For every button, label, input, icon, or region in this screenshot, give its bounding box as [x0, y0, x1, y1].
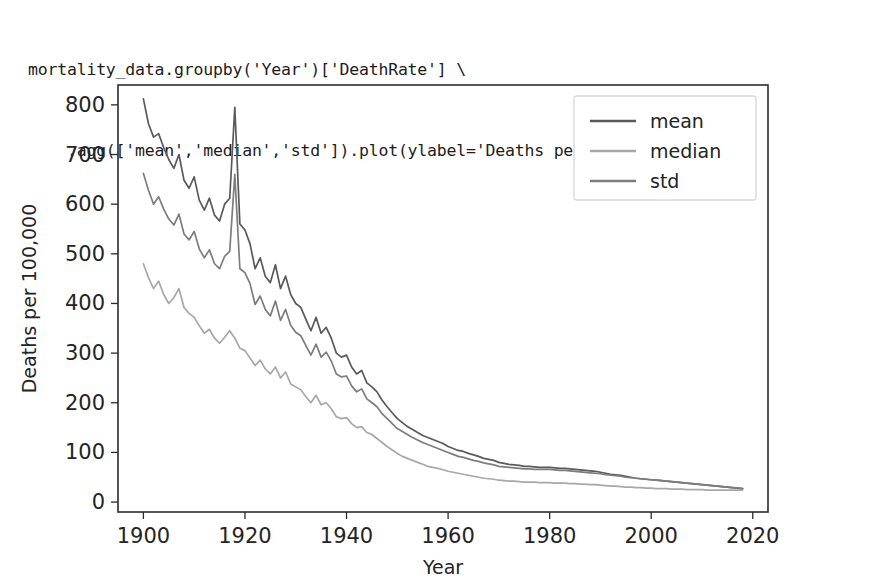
- legend-label-mean: mean: [650, 110, 704, 132]
- x-tick-label-2020: 2020: [726, 524, 779, 548]
- y-tick-label-0: 0: [92, 490, 105, 514]
- screenshot-root: mortality_data.groupby('Year')['DeathRat…: [0, 0, 896, 579]
- y-tick-label-400: 400: [65, 291, 105, 315]
- x-tick-label-1920: 1920: [218, 524, 271, 548]
- legend-label-std: std: [650, 170, 679, 192]
- y-tick-label-600: 600: [65, 192, 105, 216]
- legend-label-median: median: [650, 140, 721, 162]
- y-tick-label-300: 300: [65, 341, 105, 365]
- x-tick-label-1900: 1900: [117, 524, 170, 548]
- series-line-median: [143, 264, 742, 490]
- y-axis-title: Deaths per 100,000: [18, 204, 40, 394]
- y-tick-label-500: 500: [65, 242, 105, 266]
- x-tick-label-1960: 1960: [421, 524, 474, 548]
- x-tick-label-2000: 2000: [624, 524, 677, 548]
- y-tick-label-800: 800: [65, 93, 105, 117]
- matplotlib-figure: 0100200300400500600700800190019201940196…: [0, 62, 896, 579]
- series-line-std: [143, 173, 742, 488]
- line-chart: 0100200300400500600700800190019201940196…: [0, 62, 896, 579]
- x-tick-label-1980: 1980: [523, 524, 576, 548]
- x-tick-label-1940: 1940: [320, 524, 373, 548]
- x-axis-title: Year: [422, 556, 463, 578]
- y-tick-label-700: 700: [65, 143, 105, 167]
- y-tick-label-200: 200: [65, 391, 105, 415]
- y-tick-label-100: 100: [65, 440, 105, 464]
